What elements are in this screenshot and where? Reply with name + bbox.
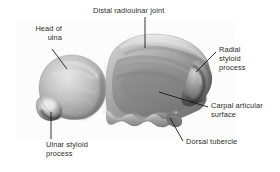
label-distal-radioulnar-joint: Distal radioulnar joint bbox=[93, 6, 203, 15]
label-head-of-ulna: Head of ulna bbox=[6, 24, 62, 42]
label-radial-styloid-process: Radial styloid process bbox=[219, 45, 277, 73]
label-carpal-articular-surface: Carpal articular surface bbox=[211, 101, 279, 119]
label-dorsal-tubercle: Dorsal tubercle bbox=[186, 137, 276, 146]
label-ulnar-styloid-process: Ulnar styloid process bbox=[46, 140, 126, 158]
anatomical-figure: Head of ulna Distal radioulnar joint Rad… bbox=[0, 0, 280, 172]
photo-grain bbox=[34, 30, 216, 130]
